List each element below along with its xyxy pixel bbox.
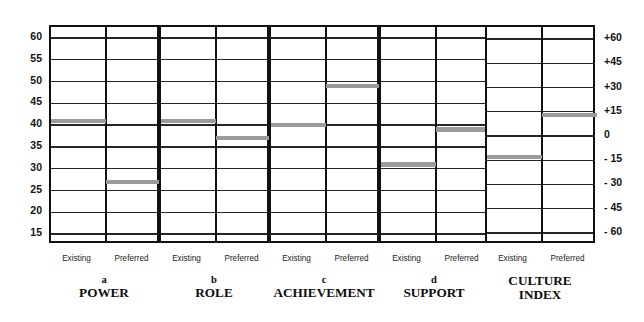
y-axis-tick-left-20: 20	[6, 205, 42, 216]
column-label-preferred: Preferred	[324, 255, 379, 263]
bar-existing	[487, 155, 542, 159]
column-label-preferred: Preferred	[104, 255, 159, 263]
bar-preferred	[542, 113, 597, 117]
centre-dash	[215, 85, 218, 99]
y-axis-tick-left-30: 30	[6, 162, 42, 173]
centre-dash	[435, 42, 438, 56]
bar-preferred	[216, 136, 271, 140]
centre-dash	[105, 85, 108, 99]
centre-dash	[435, 85, 438, 99]
centre-dash	[325, 107, 328, 121]
centre-dash	[541, 44, 544, 58]
y-axis-tick-left-40: 40	[6, 118, 42, 129]
y-axis-tick-left-35: 35	[6, 140, 42, 151]
centre-dash	[325, 216, 328, 230]
centre-dash	[435, 216, 438, 230]
bar-preferred	[326, 84, 381, 88]
centre-dash	[105, 216, 108, 230]
figure-root: 60555045403530252015+60+45+30+150- 15- 3…	[0, 0, 644, 322]
centre-dash	[215, 216, 218, 230]
centre-dash	[325, 64, 328, 78]
centre-dash	[435, 64, 438, 78]
group-letter-c: c	[269, 275, 379, 286]
panel-divider	[541, 27, 543, 241]
column-label-existing: Existing	[485, 255, 540, 263]
y-axis-tick-left-60: 60	[6, 31, 42, 42]
column-label-existing: Existing	[379, 255, 434, 263]
centre-dash	[325, 173, 328, 187]
y-axis-tick-right-45: +45	[604, 56, 644, 67]
column-label-preferred: Preferred	[214, 255, 269, 263]
y-axis-tick-left-50: 50	[6, 75, 42, 86]
y-axis-tick-right--45: - 45	[604, 202, 644, 213]
panel-support	[379, 25, 489, 243]
bar-existing	[161, 119, 216, 123]
y-axis-tick-left-55: 55	[6, 53, 42, 64]
y-axis-tick-right-60: +60	[604, 32, 644, 43]
centre-dash	[105, 64, 108, 78]
centre-dash	[105, 129, 108, 143]
centre-dash	[541, 117, 544, 131]
centre-dash	[105, 151, 108, 165]
panel-role	[159, 25, 269, 243]
y-axis-tick-left-15: 15	[6, 227, 42, 238]
column-label-existing: Existing	[49, 255, 104, 263]
column-label-existing: Existing	[269, 255, 324, 263]
centre-dash	[541, 190, 544, 204]
centre-dash	[325, 194, 328, 208]
culture-index-title-line1: CULTURE	[469, 274, 611, 287]
y-axis-tick-right--60: - 60	[604, 226, 644, 237]
group-letter-b: b	[159, 275, 269, 286]
centre-dash	[541, 165, 544, 179]
y-axis-tick-right--15: - 15	[604, 153, 644, 164]
bar-preferred	[436, 127, 491, 131]
y-axis-tick-left-45: 45	[6, 96, 42, 107]
y-axis-tick-left-25: 25	[6, 184, 42, 195]
panel-culture-index	[485, 25, 595, 243]
centre-dash	[435, 107, 438, 121]
centre-dash	[215, 151, 218, 165]
bar-existing	[381, 162, 436, 166]
centre-dash	[325, 129, 328, 143]
centre-dash	[215, 64, 218, 78]
panel-power	[49, 25, 159, 243]
centre-dash	[325, 151, 328, 165]
centre-dash	[435, 173, 438, 187]
y-axis-tick-right-0: 0	[604, 129, 644, 140]
centre-dash	[541, 93, 544, 107]
centre-dash	[215, 173, 218, 187]
centre-dash	[325, 42, 328, 56]
column-label-preferred: Preferred	[434, 255, 489, 263]
panel-achievement	[269, 25, 379, 243]
bar-existing	[271, 123, 326, 127]
y-axis-tick-right--30: - 30	[604, 177, 644, 188]
bar-existing	[51, 119, 106, 123]
centre-dash	[215, 42, 218, 56]
centre-dash	[435, 194, 438, 208]
y-axis-tick-right-30: +30	[604, 81, 644, 92]
centre-dash	[215, 194, 218, 208]
bar-preferred	[106, 180, 161, 184]
centre-dash	[541, 68, 544, 82]
y-axis-tick-right-15: +15	[604, 105, 644, 116]
culture-index-title-line2: INDEX	[469, 288, 611, 301]
centre-dash	[105, 42, 108, 56]
centre-dash	[541, 214, 544, 228]
group-letter-a: a	[49, 275, 159, 286]
column-label-existing: Existing	[159, 255, 214, 263]
column-label-preferred: Preferred	[540, 255, 595, 263]
centre-dash	[541, 141, 544, 155]
centre-dash	[105, 194, 108, 208]
